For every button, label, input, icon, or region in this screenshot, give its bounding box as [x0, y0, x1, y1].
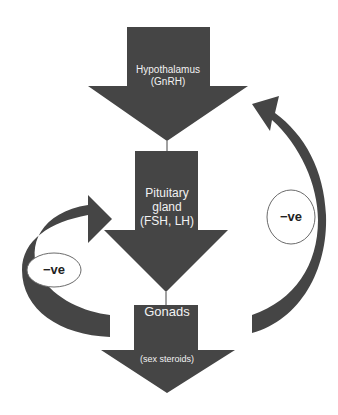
right-negative-feedback-label: −ve — [271, 209, 311, 224]
hypothalamus-label: Hypothalamus (GnRH) — [110, 64, 226, 87]
gonads-label: Gonads — [128, 305, 206, 320]
pituitary-label: Pituitary gland (FSH, LH) — [131, 187, 203, 228]
gonads-name: Gonads — [128, 305, 206, 320]
gonads-hormone-label: (sex steroids) — [110, 354, 224, 364]
left-negative-feedback-label: −ve — [34, 262, 74, 277]
hpg-axis-diagram: Hypothalamus (GnRH) Pituitary gland (FSH… — [0, 0, 338, 415]
pituitary-name-line2: gland — [131, 201, 203, 215]
pituitary-hormones: (FSH, LH) — [131, 215, 203, 229]
pituitary-name-line1: Pituitary — [131, 187, 203, 201]
gonads-hormone: (sex steroids) — [110, 354, 224, 364]
hypothalamus-hormone: (GnRH) — [110, 76, 226, 88]
hypothalamus-name: Hypothalamus — [110, 64, 226, 76]
